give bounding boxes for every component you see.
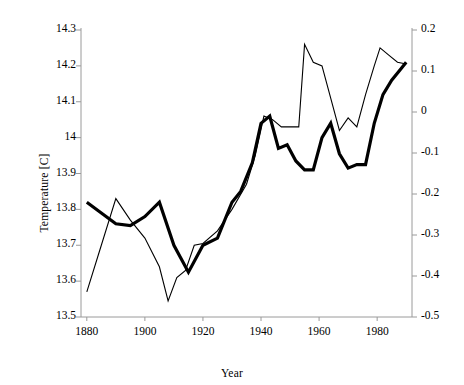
y-tick-label-left: 14.2 (28, 58, 76, 70)
y-tick-label-right: -0.4 (421, 268, 464, 280)
y-tick-label-right: -0.1 (421, 145, 464, 157)
x-tick-label: 1900 (119, 325, 171, 337)
series-thin-series (87, 44, 406, 301)
y-tick-label-left: 13.7 (28, 237, 76, 249)
x-tick-label: 1960 (293, 325, 345, 337)
temperature-line-chart: Temperature [C] Year 14.314.214.11413.91… (0, 0, 464, 385)
y-tick-label-right: -0.5 (421, 309, 464, 321)
y-tick-label-left: 14 (28, 130, 76, 142)
x-tick-label: 1880 (61, 325, 113, 337)
y-tick-label-right: -0.2 (421, 186, 464, 198)
series-thick-series (87, 62, 406, 272)
y-tick-label-right: 0 (421, 104, 464, 116)
y-tick-label-right: -0.3 (421, 227, 464, 239)
y-tick-label-left: 14.1 (28, 94, 76, 106)
y-tick-label-left: 13.9 (28, 166, 76, 178)
x-tick-label: 1940 (235, 325, 287, 337)
y-tick-label-left: 13.5 (28, 309, 76, 321)
y-tick-label-right: 0.1 (421, 63, 464, 75)
y-tick-label-left: 13.8 (28, 201, 76, 213)
y-tick-label-left: 14.3 (28, 22, 76, 34)
x-tick-label: 1980 (351, 325, 403, 337)
x-tick-label: 1920 (177, 325, 229, 337)
y-tick-label-right: 0.2 (421, 22, 464, 34)
y-tick-label-left: 13.6 (28, 273, 76, 285)
